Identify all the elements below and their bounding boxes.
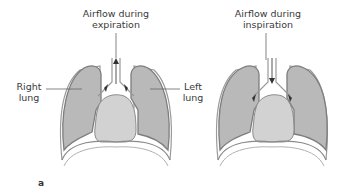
- diaphragm: [218, 141, 326, 160]
- panel-label: a: [38, 178, 44, 188]
- diaphragm: [62, 141, 170, 160]
- title-line-1: Airflow during: [230, 8, 306, 19]
- title-line-1: Airflow during: [78, 8, 154, 19]
- title-line-2: inspiration: [230, 19, 306, 30]
- arrow-bronchus-right-icon: [104, 84, 108, 92]
- right-lung: [219, 66, 259, 150]
- label-line-1: Left: [180, 81, 206, 92]
- left-lung: [287, 66, 327, 150]
- inspiration-title: Airflow during inspiration: [230, 8, 306, 30]
- diaphragm-inner: [220, 147, 324, 166]
- label-line-2: lung: [14, 92, 44, 103]
- heart: [95, 95, 136, 142]
- diaphragm-inner: [64, 147, 168, 166]
- inspiration-diagram: [217, 33, 328, 166]
- arrow-up-icon: [113, 58, 119, 64]
- heart: [253, 95, 294, 142]
- left-lung-label: Left lung: [180, 81, 206, 103]
- right-lung-label: Right lung: [14, 81, 44, 103]
- expiration-diagram: [46, 33, 180, 166]
- expiration-title: Airflow during expiration: [78, 8, 154, 30]
- title-line-2: expiration: [78, 19, 154, 30]
- left-lung: [131, 66, 169, 150]
- arrow-bronchus-left-icon: [124, 84, 128, 92]
- label-line-2: lung: [180, 92, 206, 103]
- label-line-1: Right: [14, 81, 44, 92]
- arrow-down-icon: [269, 78, 275, 84]
